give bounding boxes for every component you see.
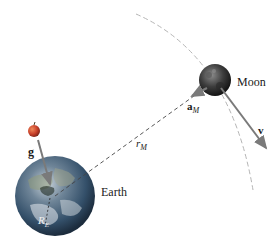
distance-subscript: M [140, 143, 147, 152]
velocity-label: v [258, 124, 264, 136]
moon-sphere [199, 64, 231, 96]
moon-label: Moon [237, 75, 266, 90]
moon-acceleration-subscript: M [193, 106, 200, 115]
apple [28, 122, 40, 137]
velocity-arrow [221, 88, 266, 148]
distance-line [55, 88, 205, 196]
earth-radius-label: RE [38, 214, 49, 229]
moon-acceleration-label: aM [187, 100, 199, 115]
gravity-label: g [28, 145, 34, 160]
earth-label: Earth [101, 185, 127, 200]
diagram-svg [0, 0, 280, 242]
distance-label: rM [136, 137, 147, 152]
diagram-canvas: Moon Earth v g aM rM RE [0, 0, 280, 242]
earth-radius-subscript: E [45, 221, 49, 229]
earth-radius-symbol: R [38, 214, 45, 226]
